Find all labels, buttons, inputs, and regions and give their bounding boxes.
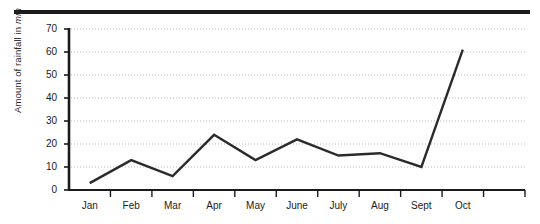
x-axis-tick-label: July [316, 201, 360, 211]
y-axis-tick-label: 20 [31, 139, 57, 149]
gridlines-group [71, 29, 525, 190]
rainfall-line-chart-figure: Amount of rainfall in mm 010203040506070… [0, 0, 540, 224]
y-axis-tick-label: 0 [31, 185, 57, 195]
x-axis-tick-label: Oct [441, 201, 485, 211]
chart-plot-area [0, 0, 540, 224]
x-axis-tick-label: Sept [399, 201, 443, 211]
y-axis-tick-label: 10 [31, 162, 57, 172]
x-axis-tick-label: June [275, 201, 319, 211]
x-axis-tick-label: Apr [192, 201, 236, 211]
x-axis-tick-label: Jan [68, 201, 112, 211]
y-axis-tick-label: 70 [31, 24, 57, 34]
y-axis-tick-label: 60 [31, 47, 57, 57]
y-axis-tick-label: 40 [31, 93, 57, 103]
x-axis-tick-label: May [234, 201, 278, 211]
rainfall-data-line [90, 50, 463, 183]
y-axis-tick-label: 30 [31, 116, 57, 126]
x-axis-tick-label: Aug [358, 201, 402, 211]
y-axis-tick-label: 50 [31, 70, 57, 80]
x-axis-tick-label: Mar [151, 201, 195, 211]
x-axis-tick-label: Feb [109, 201, 153, 211]
